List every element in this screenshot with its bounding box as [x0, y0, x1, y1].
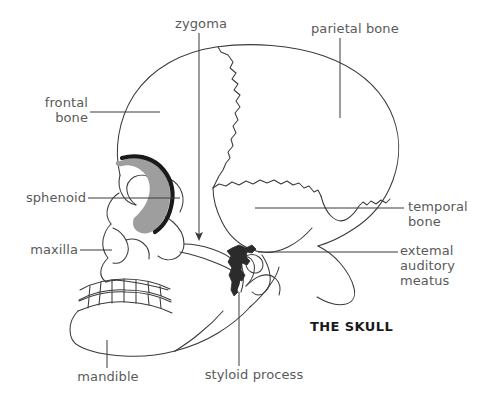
coronal-suture	[213, 47, 240, 188]
mandible-body	[70, 311, 175, 356]
frontal-orbital-rim	[119, 175, 136, 205]
label-styloid-process-text: styloid process	[199, 367, 309, 382]
label-external-auditory-meatus: extemal auditory meatus	[400, 243, 455, 288]
label-styloid-process: styloid process	[199, 367, 309, 382]
tooth-divider-l2	[99, 294, 100, 305]
label-sphenoid-text: sphenoid	[10, 190, 86, 205]
label-zygoma: zygoma	[168, 16, 234, 31]
nasal-aperture-inner	[126, 239, 149, 259]
upper-teeth-occlusal	[79, 290, 171, 300]
nasal-aperture	[113, 228, 128, 263]
styloid-process-shape	[227, 245, 256, 296]
lower-teeth-base	[78, 302, 172, 313]
tooth-divider-l6	[148, 294, 149, 305]
figure-title: THE SKULL	[310, 319, 393, 334]
styloid-process-highlight	[227, 245, 256, 296]
mandibular-notch	[246, 275, 280, 295]
tooth-divider-u6	[148, 282, 149, 293]
label-parietal-bone-text: parietal bone	[311, 21, 399, 36]
occipital-contour	[317, 246, 355, 305]
facial-profile	[101, 224, 111, 282]
label-mandible: mandible	[75, 369, 141, 384]
sphenoid-highlight	[116, 156, 173, 233]
label-eam-line1: extemal	[400, 243, 455, 258]
label-zygoma-text: zygoma	[168, 16, 234, 31]
label-temporal-bone: temporal bone	[408, 199, 468, 229]
label-parietal-bone: parietal bone	[311, 21, 399, 36]
label-temporal-bone-line1: temporal	[408, 199, 468, 214]
lower-teeth-row	[79, 292, 171, 302]
label-maxilla-text: maxilla	[18, 242, 78, 257]
zygomatic-arch	[184, 244, 234, 261]
temporal-lower-curve	[213, 188, 312, 252]
zygomatic-arch-lower	[180, 252, 231, 270]
mandible-angle-inner	[175, 311, 223, 351]
label-maxilla: maxilla	[18, 242, 78, 257]
label-mandible-text: mandible	[75, 369, 141, 384]
squamosal-suture	[213, 180, 321, 196]
tooth-divider-l7	[160, 298, 161, 308]
leader-lines	[80, 33, 404, 368]
label-eam-line2: auditory	[400, 258, 455, 273]
label-frontal-bone: frontal bone	[20, 95, 88, 125]
maxilla-body	[106, 280, 168, 290]
label-eam-line3: meatus	[400, 273, 455, 288]
label-sphenoid: sphenoid	[10, 190, 86, 205]
label-temporal-bone-line2: bone	[408, 214, 468, 229]
label-frontal-bone-line1: frontal	[20, 95, 88, 110]
label-frontal-bone-line2: bone	[20, 110, 88, 125]
skull-diagram-figure: zygoma parietal bone frontal bone spheno…	[0, 0, 487, 404]
